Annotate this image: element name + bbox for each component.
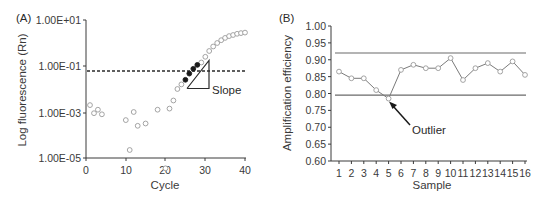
panel-a-markers <box>88 30 248 171</box>
x-tick-label: 6 <box>398 167 404 179</box>
data-point <box>211 44 216 49</box>
data-point <box>207 49 212 54</box>
data-point <box>179 82 184 87</box>
exponential-point <box>183 77 188 82</box>
x-tick-label: 16 <box>519 167 531 179</box>
data-point <box>399 68 404 73</box>
data-point <box>171 98 176 103</box>
data-point <box>203 54 208 59</box>
data-point <box>123 118 128 123</box>
exponential-point <box>187 71 192 76</box>
data-point <box>361 76 366 81</box>
x-tick-label: 15 <box>507 167 519 179</box>
x-tick-label: 2 <box>348 167 354 179</box>
data-point <box>175 87 180 92</box>
efficiency-line <box>339 58 525 99</box>
y-tick-label: 0.80 <box>306 88 327 100</box>
data-point <box>448 56 453 61</box>
y-tick-label: 0.90 <box>306 54 327 66</box>
exponential-point <box>191 66 196 71</box>
y-tick-label: 0.95 <box>306 37 327 49</box>
y-ticks: 1.000.950.900.850.800.750.700.650.60 <box>306 20 331 167</box>
data-point <box>411 62 416 67</box>
data-point <box>243 30 248 35</box>
x-tick-label: 14 <box>494 167 506 179</box>
data-point <box>88 103 93 108</box>
x-tick-label: 4 <box>373 167 379 179</box>
data-point <box>473 66 478 71</box>
outlier-point <box>386 96 391 101</box>
x-tick-label: 8 <box>423 167 429 179</box>
slope-label: Slope <box>212 84 241 96</box>
y-tick-label: 1.00E-03 <box>38 107 81 119</box>
panel-a: (A) 1.00E+01 1.00E-01 1.00E-03 1.00E-05 … <box>16 12 251 191</box>
data-point <box>163 166 168 171</box>
x-axis-title: Cycle <box>151 179 180 191</box>
data-point <box>143 121 148 126</box>
data-point <box>436 66 441 71</box>
data-point <box>96 107 101 112</box>
y-tick-label: 1.00E+01 <box>36 14 81 26</box>
outlier-arrow-head-icon <box>389 102 397 110</box>
data-point <box>349 76 354 81</box>
data-point <box>100 112 105 117</box>
data-point <box>510 59 515 64</box>
x-tick-label: 1 <box>336 167 342 179</box>
data-point <box>461 78 466 83</box>
y-tick-label: 0.85 <box>306 71 327 83</box>
x-tick-label: 11 <box>458 167 469 179</box>
y-tick-label: 0.70 <box>306 121 327 133</box>
x-tick-label: 12 <box>470 167 482 179</box>
x-tick-label: 3 <box>361 167 367 179</box>
x-tick-label: 10 <box>120 164 132 176</box>
data-point <box>92 111 97 116</box>
x-ticks: 12345678910111213141516 <box>336 161 531 179</box>
x-tick-label: 10 <box>445 167 457 179</box>
y-axis-title: Log fluorescence (Rn) <box>16 33 28 146</box>
x-tick-label: 0 <box>83 164 89 176</box>
data-point <box>498 69 503 74</box>
x-tick-label: 9 <box>435 167 441 179</box>
x-tick-label: 30 <box>199 164 211 176</box>
outlier-arrow-shaft <box>393 106 410 125</box>
x-tick-label: 5 <box>386 167 392 179</box>
exponential-point <box>195 63 200 68</box>
data-point <box>155 107 160 112</box>
panel-b-label: (B) <box>279 12 295 24</box>
y-tick-label: 0.60 <box>306 155 327 167</box>
panel-b: (B) 1.000.950.900.850.800.750.700.650.60… <box>279 12 531 191</box>
y-axis-title: Amplification efficiency <box>281 35 293 151</box>
y-tick-label: 0.75 <box>306 104 327 116</box>
x-tick-label: 40 <box>239 164 251 176</box>
y-tick-label: 1.00 <box>306 20 327 32</box>
data-point <box>485 61 490 66</box>
efficiency-markers <box>337 56 528 101</box>
outlier-label: Outlier <box>412 124 446 136</box>
data-point <box>423 66 428 71</box>
x-tick-label: 7 <box>410 167 416 179</box>
y-tick-label: 0.65 <box>306 138 327 150</box>
data-point <box>131 110 136 115</box>
data-point <box>374 88 379 93</box>
x-tick-label: 13 <box>482 167 494 179</box>
y-tick-label: 1.00E-05 <box>38 152 81 164</box>
data-point <box>127 148 132 153</box>
data-point <box>523 73 528 78</box>
figure: (A) 1.00E+01 1.00E-01 1.00E-03 1.00E-05 … <box>0 0 540 205</box>
data-point <box>135 123 140 128</box>
x-axis-title: Sample <box>413 179 452 191</box>
data-point <box>337 69 342 74</box>
data-point <box>167 106 172 111</box>
panel-a-label: (A) <box>16 12 32 24</box>
y-tick-label: 1.00E-01 <box>38 60 81 72</box>
